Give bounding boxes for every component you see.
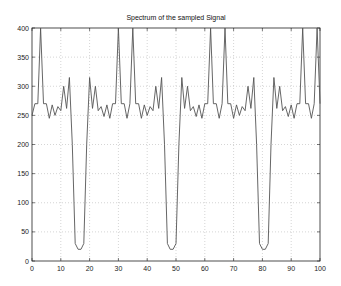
x-tick-label: 20 xyxy=(86,265,94,272)
x-axis-ticks: 0102030405060708090100 xyxy=(30,28,326,272)
x-tick-label: 100 xyxy=(314,265,326,272)
y-tick-label: 200 xyxy=(17,141,29,148)
x-tick-label: 30 xyxy=(115,265,123,272)
y-tick-label: 150 xyxy=(17,170,29,177)
chart: Spectrum of the sampled Signal 010203040… xyxy=(0,0,341,286)
x-tick-label: 0 xyxy=(30,265,34,272)
chart-title: Spectrum of the sampled Signal xyxy=(126,14,226,22)
x-tick-label: 60 xyxy=(201,265,209,272)
y-tick-label: 300 xyxy=(17,83,29,90)
y-tick-label: 350 xyxy=(17,54,29,61)
x-tick-label: 40 xyxy=(143,265,151,272)
y-tick-label: 400 xyxy=(17,25,29,32)
x-tick-label: 70 xyxy=(230,265,238,272)
x-tick-label: 10 xyxy=(57,265,65,272)
x-tick-label: 50 xyxy=(172,265,180,272)
y-tick-label: 100 xyxy=(17,199,29,206)
x-tick-label: 90 xyxy=(287,265,295,272)
y-tick-label: 0 xyxy=(25,258,29,265)
grid-lines xyxy=(32,28,320,261)
x-tick-label: 80 xyxy=(259,265,267,272)
y-tick-label: 50 xyxy=(21,228,29,235)
y-tick-label: 250 xyxy=(17,112,29,119)
